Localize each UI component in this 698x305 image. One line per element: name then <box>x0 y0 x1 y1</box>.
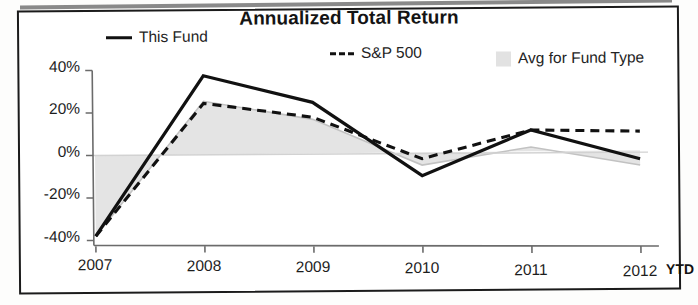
chart-container: Annualized Total Return This Fund S&P 50… <box>0 0 698 305</box>
y-axis <box>85 70 94 245</box>
x-axis-suffix-label: YTD <box>666 261 694 277</box>
y-axis-tick-label: 40% <box>18 57 80 76</box>
x-axis-tick-label: 2012 <box>605 261 675 280</box>
x-axis-tick-label: 2010 <box>387 259 457 278</box>
y-axis-tick-label: -40% <box>18 227 80 246</box>
y-axis-tick-label: 0% <box>18 142 80 161</box>
x-axis-tick-label: 2009 <box>278 258 348 277</box>
y-axis-tick-label: 20% <box>18 100 80 119</box>
x-axis-tick-label: 2011 <box>496 260 566 279</box>
x-axis-tick-label: 2007 <box>60 256 130 275</box>
x-axis-tick-label: 2008 <box>169 257 239 276</box>
y-axis-tick-label: -20% <box>18 185 80 204</box>
series-line-sp500 <box>95 99 641 236</box>
x-axis <box>94 240 659 258</box>
